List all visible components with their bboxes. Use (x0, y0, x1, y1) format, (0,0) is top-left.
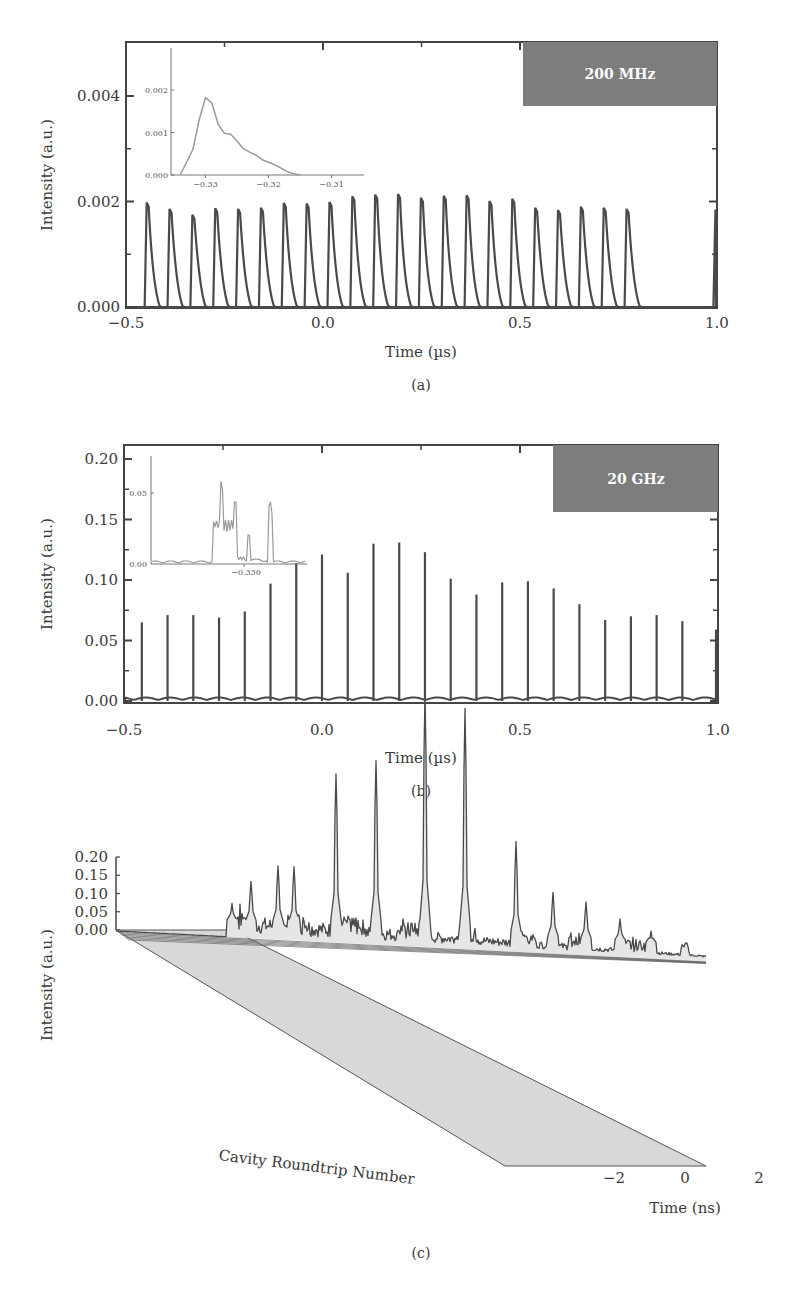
panel-a-xtick: 0.0 (311, 314, 335, 332)
pulse (419, 198, 436, 307)
svg-text:0.05: 0.05 (129, 489, 147, 498)
panel-b-badge: 20 GHz (553, 445, 718, 512)
panel-b-pulse-train (125, 542, 717, 701)
pulse (396, 194, 413, 307)
panel-b-ytick: 0.20 (85, 450, 118, 468)
svg-text:−0.330: −0.330 (231, 568, 261, 577)
svg-text:−0.32: −0.32 (256, 180, 281, 189)
panel-a-xtick: 1.0 (705, 314, 729, 332)
panel-c-ytick: 0.05 (75, 903, 108, 921)
panel-b-ytick: 0.15 (85, 511, 118, 529)
panel-b-ytick: 0.05 (85, 632, 118, 650)
panel-b-chart: 0.000.050.100.150.20−0.50.00.51.0 20 GHz… (38, 445, 730, 799)
panel-c-xtick-0: 0 (680, 1169, 690, 1187)
panel-c-waterfall (116, 691, 706, 963)
inset-trace (180, 98, 300, 175)
panel-b-badge-text: 20 GHz (607, 471, 665, 487)
panel-c-depth-label: Cavity Roundtrip Number (218, 1146, 417, 1188)
pulse (465, 195, 482, 307)
panel-b-ytick: 0.00 (85, 692, 118, 710)
panel-c-xlabel: Time (ns) (649, 1199, 721, 1217)
pulse (259, 208, 276, 307)
pulse (327, 202, 344, 307)
panel-a-ylabel: Intensity (a.u.) (38, 119, 56, 231)
panel-a-inset: 0.0000.0010.002−0.33−0.32−0.31 (145, 48, 364, 189)
panel-c-chart: 0.000.050.100.150.20 Intensity (a.u.) Ca… (38, 691, 764, 1261)
pulse (533, 208, 550, 307)
panel-b-label: (b) (411, 783, 431, 799)
panel-b-xtick: −0.5 (106, 721, 142, 739)
panel-a-ytick: 0.002 (77, 193, 120, 211)
panel-c-ytick: 0.15 (75, 866, 108, 884)
svg-text:−0.33: −0.33 (193, 180, 218, 189)
panel-a-ytick: 0.004 (77, 87, 120, 105)
panel-a-badge-text: 200 MHz (585, 66, 656, 82)
panel-b-ytick: 0.10 (85, 571, 118, 589)
panel-b-xtick: 0.5 (508, 721, 532, 739)
svg-text:0.002: 0.002 (145, 86, 168, 95)
pulse (168, 209, 185, 307)
pulse (373, 195, 390, 307)
panel-a-pulse-train (127, 194, 716, 307)
panel-b-xtick: 1.0 (706, 721, 730, 739)
panel-c-xtick-2: 2 (754, 1169, 764, 1187)
pulse (236, 209, 253, 307)
pulse (556, 210, 573, 307)
svg-text:0.001: 0.001 (145, 129, 168, 138)
pulse (145, 203, 162, 307)
pulse (442, 196, 459, 307)
panel-b-ylabel: Intensity (a.u.) (38, 518, 56, 630)
pulse (625, 209, 642, 307)
panel-b-xtick: 0.0 (310, 721, 334, 739)
figure-canvas: 0.0000.0020.004−0.50.00.51.0 200 MHz 0.0… (0, 0, 794, 1294)
pulse (510, 199, 527, 307)
pulse (213, 208, 230, 307)
inset-trace (152, 481, 305, 563)
panel-a-label: (a) (411, 377, 430, 393)
pulse (602, 208, 619, 307)
panel-a-xlabel: Time (µs) (385, 343, 457, 361)
pulse (579, 207, 596, 307)
panel-c-ytick: 0.20 (75, 848, 108, 866)
pulse (487, 201, 504, 307)
panel-b-xlabel: Time (µs) (385, 749, 457, 767)
svg-text:−0.31: −0.31 (319, 180, 344, 189)
pulse (350, 196, 367, 307)
pulse (190, 215, 207, 307)
pulse (282, 203, 299, 307)
svg-text:0.000: 0.000 (145, 171, 168, 180)
panel-a-chart: 0.0000.0020.004−0.50.00.51.0 200 MHz 0.0… (38, 42, 729, 393)
panel-c-ticks: 0.000.050.100.150.20 (75, 848, 120, 939)
panel-c-label: (c) (412, 1245, 431, 1261)
panel-c-floor (116, 930, 706, 1166)
pulse (713, 209, 716, 307)
panel-c-ylabel: Intensity (a.u.) (38, 929, 56, 1041)
panel-a-badge: 200 MHz (523, 42, 717, 106)
panel-c-ytick: 0.00 (75, 921, 108, 939)
panel-b-inset: 0.000.05−0.330 (129, 456, 307, 577)
panel-a-xtick: −0.5 (108, 314, 144, 332)
panel-c-xtick-minus2: −2 (603, 1169, 625, 1187)
svg-text:0.00: 0.00 (129, 560, 147, 569)
panel-c-ytick: 0.10 (75, 885, 108, 903)
panel-a-xtick: 0.5 (508, 314, 532, 332)
pulse (305, 204, 322, 307)
waterfall-trace (116, 691, 706, 957)
